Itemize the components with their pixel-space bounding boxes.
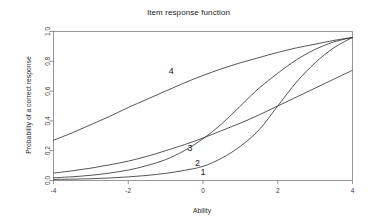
y-tick-label: 0.4 — [44, 116, 51, 125]
curve-label-group: 1234 — [169, 66, 206, 177]
curve-label-4: 4 — [169, 66, 174, 76]
x-tick-label: -4 — [51, 187, 57, 194]
curve-1 — [54, 37, 353, 179]
x-tick-label: 4 — [351, 187, 355, 194]
y-axis-title: Probability of a correct response — [25, 56, 33, 154]
x-tick-label: -2 — [125, 187, 131, 194]
x-tick-label: 2 — [276, 187, 280, 194]
curve-label-2: 2 — [195, 158, 200, 168]
x-axis-title: Ability — [193, 207, 212, 215]
x-tick-label: 0 — [201, 187, 205, 194]
curve-2 — [54, 37, 353, 177]
x-axis-ticks: -4-2024 — [51, 181, 355, 194]
item-response-plot: -4-2024 0.00.20.40.60.81.0 1234 Ability … — [0, 0, 377, 224]
curve-label-1: 1 — [200, 167, 205, 177]
y-axis-ticks: 0.00.20.40.60.81.0 — [44, 27, 54, 185]
y-tick-label: 0.0 — [44, 176, 51, 185]
curve-label-3: 3 — [187, 143, 192, 153]
curve-group — [54, 37, 353, 179]
y-tick-label: 1.0 — [44, 27, 51, 36]
chart-container: Item response function -4-2024 0.00.20.4… — [0, 0, 377, 224]
y-tick-label: 0.8 — [44, 56, 51, 65]
plot-frame — [54, 32, 353, 181]
y-tick-label: 0.6 — [44, 86, 51, 95]
y-tick-label: 0.2 — [44, 146, 51, 155]
plot-box — [54, 32, 353, 181]
